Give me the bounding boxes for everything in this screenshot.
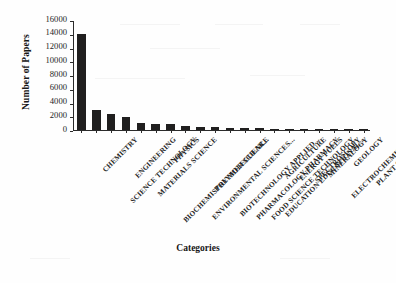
bar-series: [74, 21, 370, 130]
y-axis-tick: 16000: [33, 21, 73, 22]
bar: [107, 114, 116, 130]
bar-chart-figure: Number of Papers 16000140001200010000800…: [0, 0, 396, 283]
y-axis-tick-label: 14000: [46, 28, 67, 37]
y-axis-tick-mark: [70, 49, 73, 50]
bar: [92, 110, 101, 130]
y-axis-title-text: Number of Papers: [21, 34, 31, 110]
y-axis-tick-label: 16000: [46, 15, 67, 24]
y-axis-tick: 12000: [33, 49, 73, 50]
y-axis-tick: 6000: [33, 90, 73, 91]
y-axis-tick-label: 4000: [50, 97, 67, 106]
y-axis-tick-mark: [70, 104, 73, 105]
y-axis-tick-label: 12000: [46, 42, 67, 51]
x-axis-category-label: CHEMISTRY: [101, 135, 140, 174]
x-axis-line: [73, 130, 370, 131]
y-axis-tick-label: 0: [63, 125, 67, 134]
y-axis-tick-label: 8000: [50, 70, 67, 79]
x-axis-title: Categories: [0, 243, 396, 253]
bar: [77, 34, 86, 130]
y-axis-tick: 8000: [33, 76, 73, 77]
plot-area: 1600014000120001000080006000400020000: [73, 21, 370, 131]
y-axis-tick-mark: [70, 76, 73, 77]
y-axis-title: Number of Papers: [18, 18, 34, 126]
y-axis-tick-mark: [70, 131, 73, 132]
bar: [137, 123, 146, 130]
y-axis-tick-label: 10000: [46, 56, 67, 65]
y-axis-tick-mark: [70, 35, 73, 36]
y-axis-tick-label: 6000: [50, 83, 67, 92]
bar: [122, 117, 131, 130]
y-axis-tick-mark: [70, 62, 73, 63]
x-axis-category-labels: CHEMISTRYSCIENCE TECHNOLOGYENGINEERINGMA…: [73, 133, 393, 233]
y-axis-tick: 10000: [33, 62, 73, 63]
scan-artifact: [280, 258, 330, 259]
y-axis-tick: 4000: [33, 104, 73, 105]
y-axis-tick-mark: [70, 117, 73, 118]
scan-artifact: [30, 258, 70, 259]
y-axis-tick-label: 2000: [50, 111, 67, 120]
y-axis-tick-mark: [70, 21, 73, 22]
y-axis-tick: 0: [33, 131, 73, 132]
y-axis-tick-mark: [70, 90, 73, 91]
y-axis-tick: 14000: [33, 35, 73, 36]
y-axis-tick: 2000: [33, 117, 73, 118]
